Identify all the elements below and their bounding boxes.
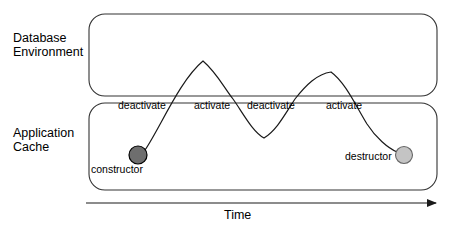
database-environment-box [89, 14, 437, 96]
destructor-node [396, 147, 413, 164]
constructor-node [129, 146, 147, 164]
diagram-root: Database Environment Application Cache d… [0, 0, 460, 231]
state-label-activate-2: activate [326, 99, 362, 111]
lane-label-database-environment: Database Environment [13, 31, 83, 59]
lane-label-application-cache: Application Cache [13, 126, 74, 154]
state-label-deactivate-2: deactivate [247, 99, 295, 111]
state-label-activate-1: activate [194, 99, 230, 111]
axis-label-time: Time [224, 208, 251, 223]
node-label-destructor: destructor [345, 150, 392, 162]
node-label-constructor: constructor [91, 163, 143, 175]
state-label-deactivate-1: deactivate [118, 99, 166, 111]
